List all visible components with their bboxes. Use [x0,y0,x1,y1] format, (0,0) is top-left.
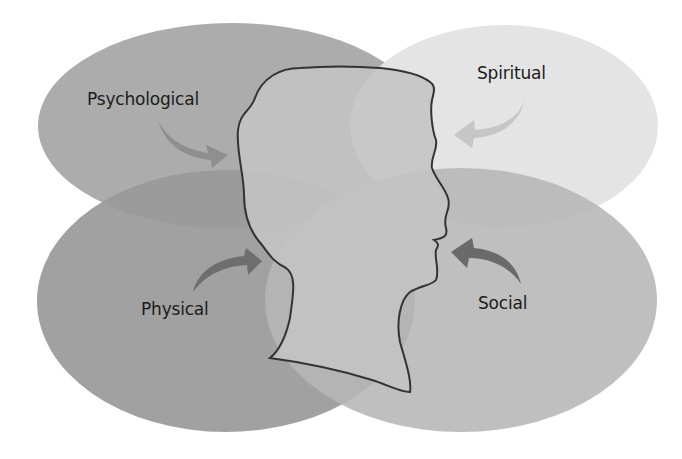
holistic-health-diagram: Psychological Spiritual Physical Social [0,0,682,459]
physical-label: Physical [141,299,209,319]
psychological-label: Psychological [87,89,199,109]
diagram-graphic [0,0,682,459]
social-label: Social [478,293,527,313]
spiritual-label: Spiritual [477,63,546,83]
